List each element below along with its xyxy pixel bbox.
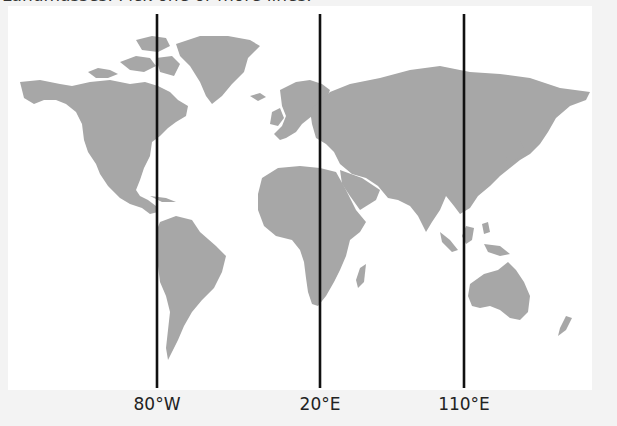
meridian-label-110e: 110°E bbox=[438, 394, 490, 414]
new-zealand bbox=[558, 316, 572, 336]
southeast-asia-islands bbox=[440, 222, 510, 256]
caribbean bbox=[150, 196, 176, 202]
uk-ireland bbox=[270, 108, 284, 126]
arctic-islands bbox=[88, 36, 180, 78]
iceland bbox=[250, 93, 266, 101]
south-america bbox=[156, 216, 226, 360]
world-map bbox=[0, 0, 617, 426]
meridian-label-20e: 20°E bbox=[300, 394, 341, 414]
madagascar bbox=[356, 264, 366, 288]
greenland bbox=[176, 36, 260, 104]
north-america bbox=[20, 80, 188, 214]
meridian-label-80w: 80°W bbox=[134, 394, 181, 414]
australia bbox=[468, 262, 530, 320]
